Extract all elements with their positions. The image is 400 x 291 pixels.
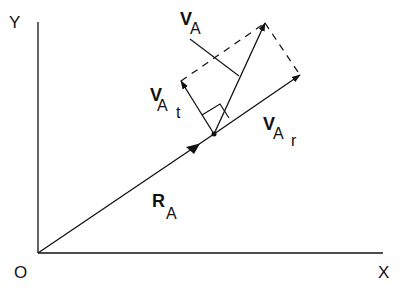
- y-axis-label: Y: [9, 13, 20, 32]
- position-vector-arrowhead: [186, 144, 200, 155]
- origin-label: O: [14, 263, 27, 282]
- position-label-ra: R A: [152, 191, 177, 222]
- x-axis-label: X: [378, 263, 389, 282]
- velocity-vector-va: [214, 23, 265, 134]
- ra-sub: A: [166, 205, 177, 222]
- va-label-leader-line: [190, 39, 239, 76]
- velocity-label-va: V A: [180, 9, 201, 37]
- dashed-construction-line-right: [265, 23, 300, 75]
- vat-subsub: t: [176, 104, 181, 121]
- var-sub: A: [273, 125, 284, 142]
- ra-main: R: [152, 191, 165, 211]
- right-angle-marker: [202, 104, 229, 118]
- var-subsub: r: [291, 132, 297, 149]
- va-sub: A: [190, 20, 201, 37]
- velocity-decomposition-diagram: Y X O V A V A t V: [0, 0, 400, 291]
- tangential-label-vat: V A t: [150, 85, 181, 121]
- tangential-velocity-vector: [181, 81, 214, 134]
- radial-label-var: V A r: [263, 114, 297, 149]
- position-vector-ra: [38, 134, 214, 253]
- vat-sub: A: [157, 97, 168, 114]
